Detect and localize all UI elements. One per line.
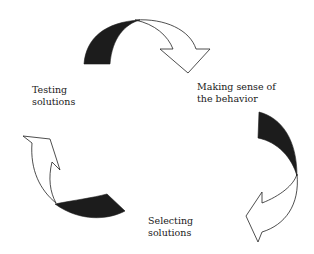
arrow-tail-left <box>55 194 125 218</box>
arrow-head-left <box>23 136 60 203</box>
arrow-making-sense-to-selecting <box>246 112 297 242</box>
stage-label-line: Selecting <box>148 215 193 227</box>
stage-label-selecting: Selecting solutions <box>148 215 193 239</box>
stage-label-line: Making sense of <box>197 81 276 93</box>
cycle-diagram: Testing solutions Making sense of the be… <box>0 0 314 254</box>
stage-label-testing: Testing solutions <box>32 84 75 108</box>
stage-label-line: solutions <box>32 96 75 108</box>
arrow-testing-to-making-sense <box>84 20 210 73</box>
arrow-head-right <box>246 174 297 242</box>
arrow-head-top <box>135 20 210 73</box>
arrow-tail-right <box>258 112 297 176</box>
arrow-selecting-to-testing <box>23 136 125 218</box>
stage-label-making-sense: Making sense of the behavior <box>197 81 276 105</box>
stage-label-line: Testing <box>32 84 75 96</box>
stage-label-line: solutions <box>148 227 193 239</box>
stage-label-line: the behavior <box>197 93 276 105</box>
arrow-tail-top <box>84 20 140 64</box>
